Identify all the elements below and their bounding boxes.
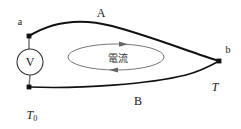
- label-voltmeter: V: [26, 56, 35, 68]
- label-temperature-cold: T0: [27, 109, 38, 123]
- junction-dot-c: [27, 85, 32, 90]
- thermoelectric-circuit-figure: a b A B T T0 V 電流: [0, 0, 241, 129]
- label-temperature-cold-subscript: 0: [33, 114, 37, 123]
- label-current-loop: 電流: [108, 54, 128, 64]
- label-temperature-cold-base: T: [27, 108, 34, 122]
- current-arrow-bottom-icon: [109, 67, 118, 72]
- conductor-b-wire: [29, 61, 219, 87]
- junction-dot-b: [217, 59, 222, 64]
- label-node-a: a: [18, 17, 22, 27]
- junction-dot-a: [27, 34, 32, 39]
- label-conductor-a: A: [97, 7, 106, 19]
- label-conductor-b: B: [134, 95, 142, 107]
- label-node-b: b: [226, 45, 231, 55]
- label-temperature-hot: T: [212, 81, 219, 93]
- current-arrow-top-icon: [119, 42, 128, 47]
